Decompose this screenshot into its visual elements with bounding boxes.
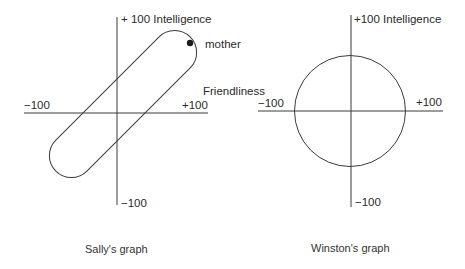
winston-y-top-label: +100 Intelligence — [354, 14, 441, 26]
sally-y-top-label: + 100 Intelligence — [121, 14, 211, 26]
mother-point — [187, 40, 193, 46]
sally-x-left-label: −100 — [24, 100, 50, 112]
sally-capsule-region — [40, 21, 205, 186]
sally-x-right-label: +100 — [182, 100, 208, 112]
sally-caption: Sally's graph — [85, 244, 148, 255]
sally-y-bottom-label: −100 — [121, 198, 147, 210]
winston-caption: Winston's graph — [311, 243, 390, 254]
winston-x-left-label: −100 — [258, 98, 284, 110]
winston-x-right-label: +100 — [416, 97, 442, 109]
winston-y-bottom-label: −100 — [355, 197, 381, 209]
sally-graph — [24, 17, 208, 205]
mother-label: mother — [205, 39, 241, 51]
winston-graph — [258, 15, 443, 207]
friendliness-axis-label: Friendliness — [203, 86, 265, 98]
